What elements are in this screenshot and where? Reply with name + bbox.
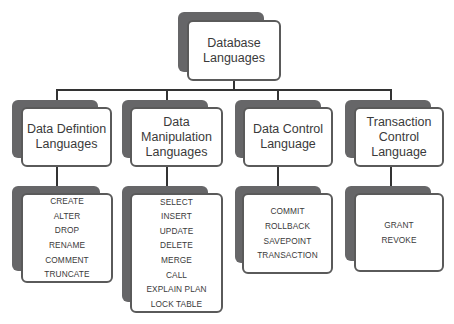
dml-command: SELECT — [160, 195, 193, 210]
ddl-title-line2: Languages — [36, 137, 98, 152]
horizontal-connector — [56, 89, 392, 91]
dml-command: MERGE — [161, 253, 192, 268]
tcl-sub-connector — [390, 166, 392, 186]
dml-title-line2: Manipulation — [141, 130, 212, 145]
tcl-node: Transaction Control Language — [354, 107, 444, 167]
tcl-title-line2: Control — [379, 130, 419, 145]
root-label-line1: Database — [207, 36, 261, 51]
tcl-title-line1: Transaction — [367, 115, 432, 130]
dml-command: INSERT — [161, 209, 192, 224]
tcl-command: GRANT — [384, 218, 414, 233]
dml-title-line3: Languages — [146, 145, 208, 160]
ddl-command: RENAME — [49, 238, 85, 253]
tcl-commands: GRANT REVOKE — [354, 193, 444, 272]
dml-command: EXPLAIN PLAN — [146, 282, 206, 297]
dml-node: Data Manipulation Languages — [130, 107, 223, 167]
ddl-command: ALTER — [54, 209, 81, 224]
dml-command: CALL — [166, 268, 187, 283]
ddl-node: Data Defintion Languages — [21, 107, 112, 167]
root-node: Database Languages — [187, 20, 281, 81]
dml-sub-connector — [166, 166, 168, 186]
dml-commands: SELECT INSERT UPDATE DELETE MERGE CALL E… — [130, 193, 223, 313]
root-label-line2: Languages — [203, 51, 265, 66]
dml-command: UPDATE — [160, 224, 194, 239]
ddl-sub-connector — [56, 166, 58, 186]
ddl-command: TRUNCATE — [44, 267, 89, 282]
ddl-command: CREATE — [50, 194, 84, 209]
dcl-command: TRANSACTION — [257, 248, 318, 263]
dcl-title-line1: Data Control — [253, 122, 323, 137]
tcl-command: REVOKE — [381, 233, 416, 248]
dcl-title-line2: Language — [260, 137, 316, 152]
dcl-commands: COMMIT ROLLBACK SAVEPOINT TRANSACTION — [242, 193, 333, 274]
dcl-command: ROLLBACK — [265, 219, 310, 234]
dcl-sub-connector — [277, 166, 279, 186]
dml-title-line1: Data — [163, 115, 189, 130]
ddl-command: DROP — [55, 223, 79, 238]
dcl-command: SAVEPOINT — [264, 234, 312, 249]
dml-command: DELETE — [160, 238, 193, 253]
tcl-title-line3: Language — [371, 145, 427, 160]
dcl-node: Data Control Language — [243, 107, 333, 167]
ddl-commands: CREATE ALTER DROP RENAME COMMENT TRUNCAT… — [21, 193, 113, 283]
dml-command: LOCK TABLE — [151, 297, 202, 312]
ddl-title-line1: Data Defintion — [27, 122, 106, 137]
ddl-command: COMMENT — [45, 253, 89, 268]
dcl-command: COMMIT — [270, 204, 304, 219]
